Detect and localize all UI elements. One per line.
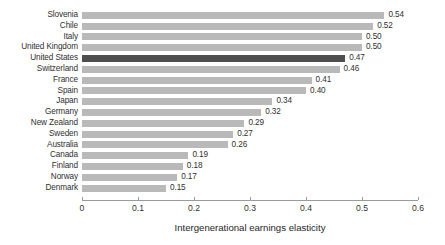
x-axis-tick-mark: [194, 197, 195, 200]
category-label: Denmark: [0, 183, 78, 194]
x-axis-tick-label: 0.3: [230, 203, 270, 213]
bar-value-label: 0.54: [388, 10, 404, 21]
bar: [82, 163, 183, 170]
x-axis-tick-mark: [306, 197, 307, 200]
bar: [82, 152, 188, 159]
bar-row: Sweden0.27: [0, 129, 445, 140]
bar-row: Slovenia0.54: [0, 10, 445, 21]
category-label: Switzerland: [0, 64, 78, 75]
x-axis-tick-label: 0: [62, 203, 102, 213]
bar-value-label: 0.26: [232, 140, 248, 151]
category-label: New Zealand: [0, 118, 78, 129]
bar-row: Switzerland0.46: [0, 64, 445, 75]
category-label: United Kingdom: [0, 42, 78, 53]
category-label: Canada: [0, 150, 78, 161]
bar-value-label: 0.40: [310, 86, 326, 97]
bar-row: Denmark0.15: [0, 183, 445, 194]
bar-value-label: 0.41: [316, 75, 332, 86]
x-axis-tick-mark: [418, 197, 419, 200]
plot-area: Slovenia0.54Chile0.52Italy0.50United Kin…: [0, 0, 445, 200]
bar-value-label: 0.52: [377, 21, 393, 32]
bar-row: Norway0.17: [0, 172, 445, 183]
category-label: Japan: [0, 96, 78, 107]
x-axis-title: Intergenerational earnings elasticity: [82, 222, 418, 233]
x-axis-tick-label: 0.4: [286, 203, 326, 213]
bar: [82, 87, 306, 94]
bar-row: United States0.47: [0, 53, 445, 64]
bar: [82, 141, 228, 148]
category-label: Germany: [0, 107, 78, 118]
category-label: Australia: [0, 140, 78, 151]
category-label: United States: [0, 53, 78, 64]
bar-value-label: 0.17: [181, 172, 197, 183]
bar-value-label: 0.46: [344, 64, 360, 75]
bar-row: Italy0.50: [0, 32, 445, 43]
bar-value-label: 0.50: [366, 32, 382, 43]
x-axis-tick-mark: [82, 197, 83, 200]
x-axis-tick-label: 0.1: [118, 203, 158, 213]
bar-value-label: 0.19: [192, 150, 208, 161]
bar-highlighted: [82, 55, 345, 62]
category-label: Slovenia: [0, 10, 78, 21]
x-axis-tick-label: 0.5: [342, 203, 382, 213]
bar: [82, 109, 261, 116]
x-axis-tick-mark: [250, 197, 251, 200]
bar-value-label: 0.32: [265, 107, 281, 118]
bar-value-label: 0.50: [366, 42, 382, 53]
bar: [82, 131, 233, 138]
category-label: France: [0, 75, 78, 86]
bar-row: Germany0.32: [0, 107, 445, 118]
bar: [82, 66, 340, 73]
bar-row: New Zealand0.29: [0, 118, 445, 129]
bar-row: Finland0.18: [0, 161, 445, 172]
x-axis-tick-mark: [362, 197, 363, 200]
bar-value-label: 0.34: [276, 96, 292, 107]
bar-chart: Slovenia0.54Chile0.52Italy0.50United Kin…: [0, 0, 445, 245]
bar-value-label: 0.47: [349, 53, 365, 64]
category-label: Chile: [0, 21, 78, 32]
bar: [82, 174, 177, 181]
bar: [82, 12, 384, 19]
bar-value-label: 0.27: [237, 129, 253, 140]
x-axis-tick-label: 0.6: [398, 203, 438, 213]
bar-row: Spain0.40: [0, 86, 445, 97]
bar-value-label: 0.18: [187, 161, 203, 172]
category-label: Italy: [0, 32, 78, 43]
bar-row: Japan0.34: [0, 96, 445, 107]
bar: [82, 44, 362, 51]
category-label: Finland: [0, 161, 78, 172]
bar: [82, 33, 362, 40]
x-axis-line: [82, 200, 418, 201]
bar-row: Canada0.19: [0, 150, 445, 161]
category-label: Norway: [0, 172, 78, 183]
category-label: Spain: [0, 86, 78, 97]
bar: [82, 98, 272, 105]
x-axis-tick-label: 0.2: [174, 203, 214, 213]
bar-row: Chile0.52: [0, 21, 445, 32]
x-axis-tick-mark: [138, 197, 139, 200]
bar: [82, 120, 244, 127]
bar-value-label: 0.15: [170, 183, 186, 194]
bar-value-label: 0.29: [248, 118, 264, 129]
category-label: Sweden: [0, 129, 78, 140]
bar-row: United Kingdom0.50: [0, 42, 445, 53]
bar: [82, 77, 312, 84]
bar-row: France0.41: [0, 75, 445, 86]
bar-row: Australia0.26: [0, 140, 445, 151]
bar: [82, 23, 373, 30]
bar: [82, 185, 166, 192]
